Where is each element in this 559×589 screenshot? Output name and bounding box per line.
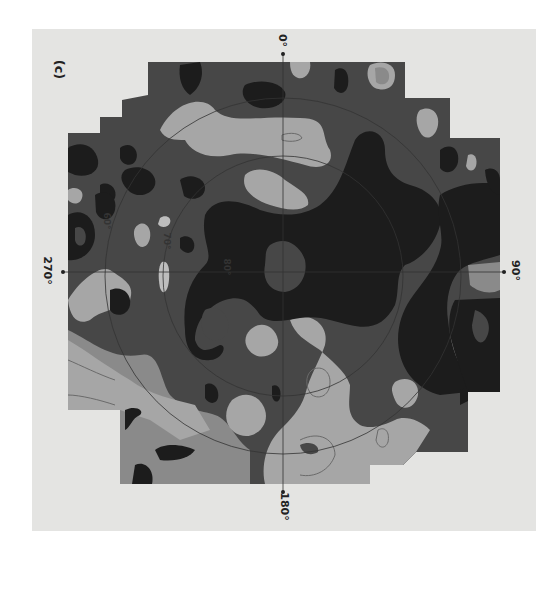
axis-label-top: 0° (276, 34, 289, 47)
tick-0 (281, 52, 285, 56)
axis-label-left: 270° (41, 256, 54, 284)
axis-label-bottom: 180° (278, 492, 291, 520)
contour-field (60, 55, 510, 495)
axis-label-right: 90° (509, 260, 522, 281)
tick-270 (61, 270, 65, 274)
circle-label-80: 80° (222, 258, 232, 275)
tick-90 (502, 270, 506, 274)
panel-label: (c) (52, 60, 67, 80)
circle-label-70: 70° (162, 232, 172, 249)
circle-label-60: 60° (102, 212, 112, 229)
